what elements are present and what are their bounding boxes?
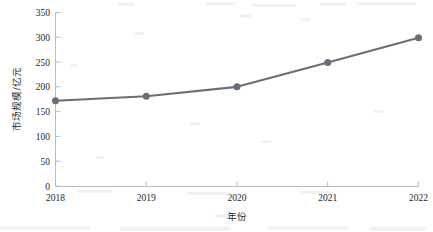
- data-point-2021: [324, 59, 331, 66]
- chart-canvas: 350 300 250 200 150 100 50 0 市场规模/亿元 201…: [0, 0, 433, 232]
- line-chart-figure: 350 300 250 200 150 100 50 0 市场规模/亿元 201…: [0, 0, 433, 232]
- y-tick-label-300: 300: [36, 33, 51, 43]
- y-tick-label-50: 50: [41, 157, 51, 167]
- y-tick-label-0: 0: [45, 182, 50, 192]
- y-tick-label-150: 150: [36, 107, 51, 117]
- y-tick-label-350: 350: [36, 8, 51, 18]
- data-point-2022: [415, 34, 422, 41]
- data-point-2018: [52, 97, 59, 104]
- data-point-2019: [143, 93, 150, 100]
- y-tick-label-200: 200: [36, 82, 51, 92]
- y-tick-label-250: 250: [36, 58, 51, 68]
- x-tick-label-2021: 2021: [318, 193, 337, 203]
- data-point-2020: [234, 83, 241, 90]
- x-tick-label-2019: 2019: [137, 193, 156, 203]
- x-tick-label-2022: 2022: [409, 193, 428, 203]
- x-tick-label-2018: 2018: [46, 193, 65, 203]
- x-tick-label-2020: 2020: [228, 193, 247, 203]
- x-axis-title: 年份: [227, 211, 247, 222]
- y-tick-label-100: 100: [36, 132, 51, 142]
- y-axis-title: 市场规模/亿元: [11, 67, 22, 130]
